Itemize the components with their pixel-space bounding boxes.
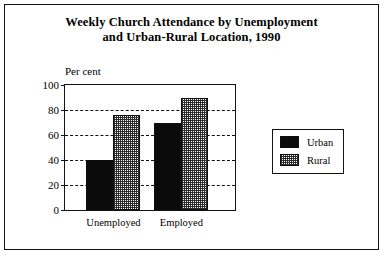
y-axis-tick-label: 60 [48,129,59,141]
gridline [65,110,235,111]
y-axis-tick-mark [61,85,65,86]
bar-rural-employed [181,98,208,211]
chart-title-line-1: Weekly Church Attendance by Unemployment [5,15,378,30]
y-axis-tick-mark [61,185,65,186]
plot-area: 020406080100UnemployedEmployed [64,84,236,211]
y-axis-tick-mark [61,135,65,136]
y-axis-tick-label: 0 [54,204,60,216]
chart-title-line-2: and Urban-Rural Location, 1990 [5,30,378,45]
y-axis-tick-label: 100 [43,79,60,91]
bar-urban-employed [154,123,181,211]
y-axis-tick-label: 40 [48,154,59,166]
y-axis-tick-label: 80 [48,104,59,116]
y-axis-tick-mark [61,160,65,161]
bar-rural-unemployed [113,115,140,210]
legend-label: Rural [307,155,330,166]
gridline [65,135,235,136]
legend-item-rural: Rural [280,154,330,166]
legend-label: Urban [307,137,333,148]
x-axis-label-employed: Employed [160,217,203,228]
y-axis-tick-mark [61,210,65,211]
y-axis-label: Per cent [65,65,101,77]
chart-legend: UrbanRural [272,129,344,174]
y-axis-tick-mark [61,110,65,111]
solid-black-swatch [280,136,299,148]
chart-figure: Weekly Church Attendance by Unemployment… [4,4,379,250]
legend-item-urban: Urban [280,136,333,148]
stippled-gray-swatch [280,154,299,166]
x-axis-label-unemployed: Unemployed [86,217,140,228]
bar-urban-unemployed [86,160,113,210]
y-axis-tick-label: 20 [48,179,59,191]
chart-title: Weekly Church Attendance by Unemployment… [5,15,378,45]
